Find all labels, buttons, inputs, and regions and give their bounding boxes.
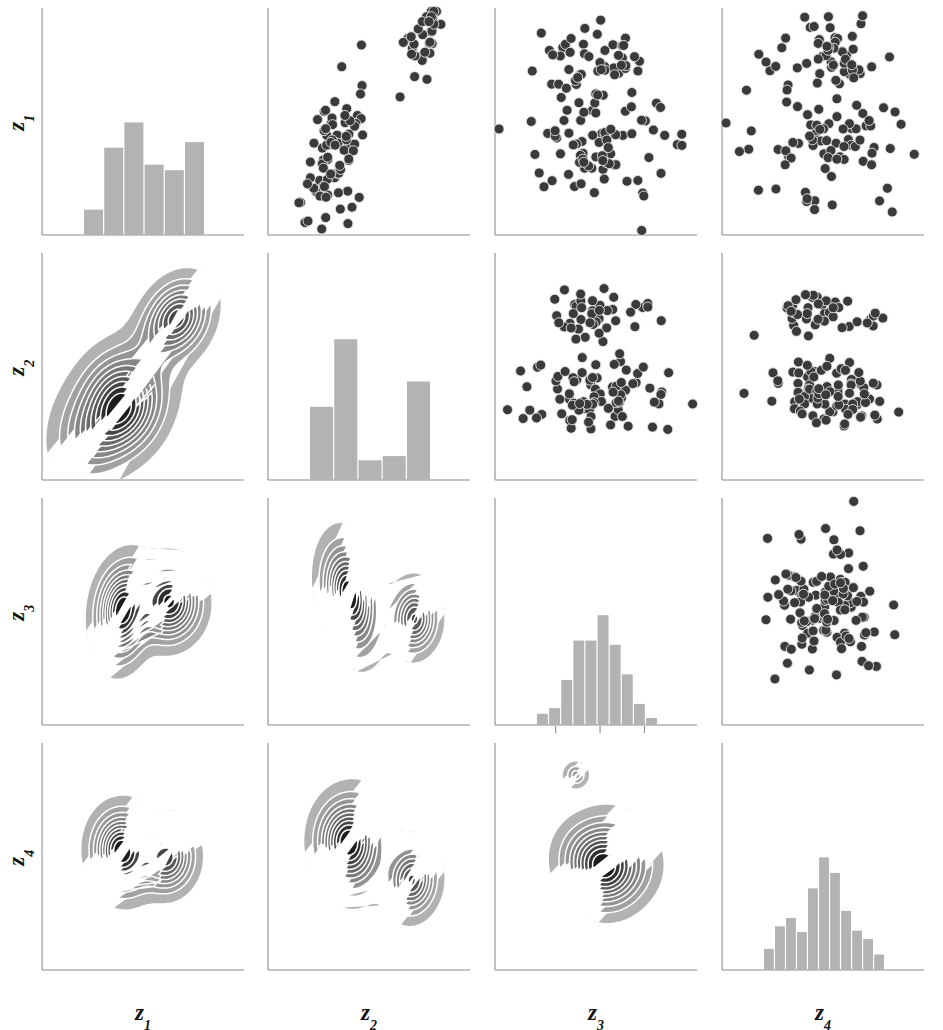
row-axis-label-z1: z1: [4, 105, 34, 139]
panel-r3-c1-contour: [42, 498, 244, 725]
col-axis-label-z2: z2: [352, 1000, 386, 1030]
panel-r1-c4-scatter: [721, 8, 924, 235]
panel-r2-c4-scatter: [722, 253, 924, 480]
row-axis-label-z4: z4: [4, 840, 34, 874]
col-axis-label-z4: z4: [806, 1000, 840, 1030]
panel-r3-c4-scatter: [722, 496, 924, 725]
panel-r2-c2-histogram: [268, 253, 470, 480]
pairs-plot-canvas: [0, 0, 943, 1030]
col-axis-label-z1: z1: [126, 1000, 160, 1030]
panel-r3-c2-contour: [268, 498, 470, 725]
panel-r4-c2-contour: [268, 743, 470, 970]
pairs-plot-figure: z1z2z3z4z1z2z3z4: [0, 0, 943, 1030]
panel-r1-c1-histogram: [42, 8, 244, 235]
panel-r1-c3-scatter: [494, 8, 697, 235]
panel-r3-c3-histogram: [495, 498, 697, 733]
col-axis-label-z3: z3: [579, 1000, 613, 1030]
panel-r4-c1-contour: [42, 743, 244, 970]
panel-r2-c3-scatter: [495, 253, 698, 480]
panel-r1-c2-scatter: [268, 6, 470, 235]
panel-r4-c4-histogram: [722, 743, 924, 970]
row-axis-label-z2: z2: [4, 350, 34, 384]
panel-r4-c3-contour: [495, 743, 697, 970]
panel-r2-c1-contour: [42, 253, 244, 480]
row-axis-label-z3: z3: [4, 595, 34, 629]
